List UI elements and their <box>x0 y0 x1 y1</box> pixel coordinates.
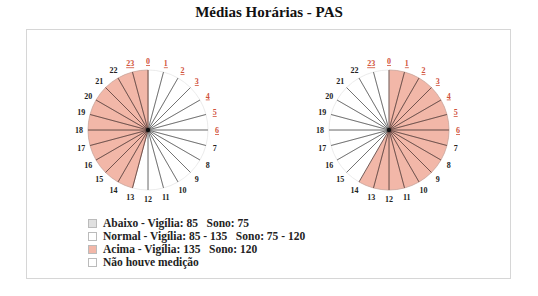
hour-label: 11 <box>403 193 411 202</box>
hour-label: 12 <box>144 195 152 204</box>
hour-label: 1 <box>405 59 409 68</box>
hour-label: 22 <box>351 66 359 75</box>
legend-item-below: Abaixo - Vigília: 85 Sono: 75 <box>88 217 305 230</box>
hour-label: 12 <box>385 195 393 204</box>
hour-label: 2 <box>181 66 185 75</box>
hour-label: 17 <box>318 144 326 153</box>
hour-label: 9 <box>195 175 199 184</box>
hour-label: 4 <box>447 92 451 101</box>
hour-label: 14 <box>110 186 118 195</box>
hour-label: 5 <box>454 108 458 117</box>
hour-label: 13 <box>367 193 375 202</box>
legend: Abaixo - Vigília: 85 Sono: 75 Normal - V… <box>88 217 305 269</box>
legend-item-normal: Normal - Vigília: 85 - 135 Sono: 75 - 12… <box>88 230 305 243</box>
hour-label: 20 <box>325 92 333 101</box>
hour-label: 2 <box>422 66 426 75</box>
hour-label: 6 <box>456 126 460 135</box>
hour-label: 7 <box>454 144 458 153</box>
legend-swatch <box>88 245 97 254</box>
hour-label: 21 <box>95 77 103 86</box>
legend-swatch <box>88 258 97 267</box>
legend-swatch <box>88 219 97 228</box>
hour-label: 0 <box>146 57 150 66</box>
hour-label: 15 <box>95 175 103 184</box>
hour-label: 0 <box>387 57 391 66</box>
hour-label: 19 <box>318 108 326 117</box>
hour-label: 23 <box>126 59 134 68</box>
hour-label: 16 <box>325 161 333 170</box>
legend-swatch <box>88 232 97 241</box>
hour-label: 17 <box>77 144 85 153</box>
hour-label: 22 <box>110 66 118 75</box>
hour-label: 6 <box>215 126 219 135</box>
hour-label: 10 <box>179 186 187 195</box>
hour-label: 10 <box>420 186 428 195</box>
hour-label: 8 <box>206 161 210 170</box>
hour-label: 21 <box>336 77 344 86</box>
hour-label: 15 <box>336 175 344 184</box>
hour-label: 8 <box>447 161 451 170</box>
hour-label: 11 <box>162 193 170 202</box>
hour-label: 18 <box>316 126 324 135</box>
hour-label: 9 <box>436 175 440 184</box>
hour-label: 19 <box>77 108 85 117</box>
hour-label: 5 <box>213 108 217 117</box>
clock-chart-left: 01234567891011121314151617181920212223 <box>75 57 219 204</box>
legend-item-none: Não houve medição <box>88 256 305 269</box>
hour-label: 23 <box>367 59 375 68</box>
hour-label: 14 <box>351 186 359 195</box>
center-dot <box>146 128 150 132</box>
hour-label: 4 <box>206 92 210 101</box>
hour-label: 7 <box>213 144 217 153</box>
hour-label: 20 <box>84 92 92 101</box>
hour-label: 3 <box>195 77 199 86</box>
clock-chart-right: 01234567891011121314151617181920212223 <box>316 57 460 204</box>
hour-label: 16 <box>84 161 92 170</box>
legend-item-above: Acima - Vigília: 135 Sono: 120 <box>88 243 305 256</box>
hour-label: 13 <box>126 193 134 202</box>
hour-label: 1 <box>164 59 168 68</box>
hour-label: 18 <box>75 126 83 135</box>
hour-label: 3 <box>436 77 440 86</box>
center-dot <box>387 128 391 132</box>
